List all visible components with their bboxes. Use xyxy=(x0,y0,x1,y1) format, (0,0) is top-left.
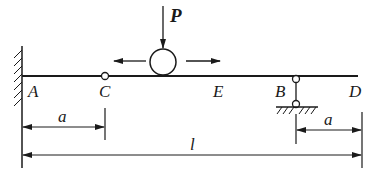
dim-ac-label: a xyxy=(58,107,67,126)
point-d-label: D xyxy=(348,82,362,101)
load-label: P xyxy=(169,5,182,26)
dim-bd-label: a xyxy=(324,110,333,129)
point-c-label: C xyxy=(99,82,111,101)
point-e-label: E xyxy=(212,82,224,101)
dim-ad-label: l xyxy=(190,135,195,154)
hinge-c xyxy=(102,73,109,80)
roller-icon xyxy=(150,49,176,75)
beam-diagram: P A C E B D a a l xyxy=(0,0,373,180)
fixed-wall-support xyxy=(14,46,22,168)
moving-load xyxy=(114,6,220,75)
point-b-label: B xyxy=(275,82,286,101)
point-a-label: A xyxy=(27,82,39,101)
